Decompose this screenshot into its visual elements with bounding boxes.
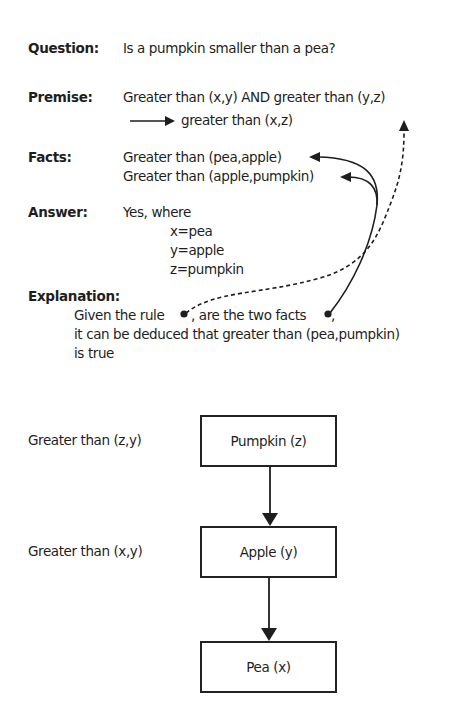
explanation-line-2: it can be deduced that greater than (pea…: [74, 326, 400, 342]
fact-1-arrowhead-icon: [309, 152, 320, 162]
implication-arrow-icon: [130, 116, 175, 126]
arrow-apple-to-pea-icon: [261, 578, 277, 641]
arrow-pumpkin-to-apple-icon: [262, 467, 278, 526]
relation-label-z-y: Greater than (z,y): [28, 432, 141, 448]
premise-line-2: greater than (x,z): [181, 112, 293, 128]
explanation-line-3: is true: [74, 345, 114, 361]
fact-1: Greater than (pea,apple): [123, 149, 282, 165]
relation-label-x-y: Greater than (x,y): [28, 543, 142, 559]
answer-binding-z: z=pumpkin: [170, 261, 244, 277]
rule-arrowhead-icon: [399, 120, 409, 131]
rule-dot-icon: [180, 310, 187, 317]
node-pumpkin: Pumpkin (z): [200, 415, 337, 467]
question-text: Is a pumpkin smaller than a pea?: [123, 40, 335, 56]
node-pea: Pea (x): [200, 641, 337, 693]
fact-2-arrowhead-icon: [340, 172, 351, 182]
node-pea-label: Pea (x): [246, 659, 290, 675]
node-apple-label: Apple (y): [240, 544, 298, 560]
explanation-line-1b: , are the two facts: [191, 307, 306, 323]
answer-label: Answer:: [28, 204, 88, 220]
question-label: Question:: [28, 40, 99, 56]
answer-binding-x: x=pea: [170, 223, 212, 239]
explanation-line-1c: ,: [331, 307, 335, 323]
explanation-label: Explanation:: [28, 288, 120, 304]
premise-line-1: Greater than (x,y) AND greater than (y,z…: [123, 89, 385, 105]
node-apple: Apple (y): [200, 526, 337, 578]
node-pumpkin-label: Pumpkin (z): [231, 433, 307, 449]
facts-label: Facts:: [28, 149, 72, 165]
answer-line-1: Yes, where: [123, 204, 191, 220]
premise-label: Premise:: [28, 89, 93, 105]
fact-2: Greater than (apple,pumpkin): [123, 168, 314, 184]
answer-binding-y: y=apple: [170, 242, 224, 258]
explanation-line-1a: Given the rule: [74, 307, 164, 323]
facts-link-arrow-icon: [318, 157, 377, 313]
